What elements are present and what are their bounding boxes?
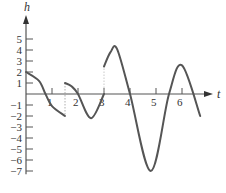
- x-axis-arrow-icon: [204, 91, 213, 97]
- curves: [26, 46, 200, 171]
- curve-segment-3: [104, 46, 200, 171]
- y-axis-arrow-icon: [23, 15, 29, 24]
- chart-svg: ht12345654321−1−2−3−4−5−6−7: [0, 0, 226, 193]
- y-tick-label: −7: [10, 165, 22, 177]
- chart: ht12345654321−1−2−3−4−5−6−7: [0, 0, 226, 193]
- y-axis-label: h: [24, 0, 30, 14]
- x-tick-label: 5: [151, 96, 157, 108]
- x-tick-label: 2: [73, 96, 79, 108]
- axes: ht12345654321−1−2−3−4−5−6−7: [10, 0, 221, 177]
- x-tick-label: 6: [177, 96, 183, 108]
- x-axis-label: t: [217, 87, 221, 101]
- y-tick-label: 1: [17, 77, 23, 89]
